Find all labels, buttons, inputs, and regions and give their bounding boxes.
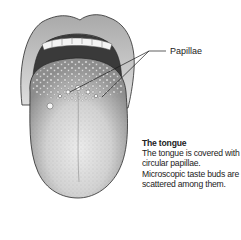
papillae-label: Papillae: [170, 46, 202, 56]
caption-body: The tongue is covered with circular papi…: [142, 148, 241, 189]
caption-title: The tongue: [142, 138, 241, 148]
caption: The tongue The tongue is covered with ci…: [142, 138, 241, 189]
